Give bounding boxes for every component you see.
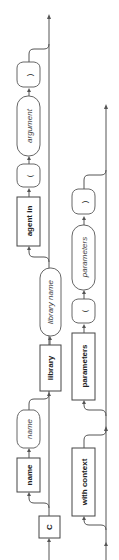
arrow-icon xyxy=(104,426,108,431)
punct-close-paren: ) xyxy=(17,62,40,87)
keyword-label: C xyxy=(45,524,54,530)
variable-label: name xyxy=(25,418,34,439)
keyword-c: C xyxy=(39,516,60,538)
arrow-icon xyxy=(82,400,86,404)
connector xyxy=(29,394,49,410)
keyword-agent-in: agent in xyxy=(17,197,40,246)
connector xyxy=(84,170,106,189)
punct-close-paren: ) xyxy=(72,189,95,214)
arrow-icon xyxy=(47,14,51,19)
variable-name: name xyxy=(17,410,40,448)
arrow-icon xyxy=(27,246,31,250)
variable-argument: argument xyxy=(17,96,40,156)
arrow-icon xyxy=(82,516,86,520)
punct-open-paren: ( xyxy=(72,299,95,323)
connector xyxy=(29,494,49,508)
track-1: C name name library xyxy=(17,14,61,560)
punct-open-paren: ( xyxy=(17,164,40,187)
arrow-icon xyxy=(27,188,31,192)
variable-label: argument xyxy=(25,108,34,143)
arrow-icon xyxy=(27,492,31,496)
arrow-icon xyxy=(104,104,108,109)
punct-label: ( xyxy=(80,309,89,312)
arrow-icon xyxy=(82,324,86,328)
arrow-icon xyxy=(104,542,108,546)
arrow-icon xyxy=(82,290,86,294)
arrow-icon xyxy=(27,156,31,160)
punct-label: ) xyxy=(80,200,89,203)
arrow-icon xyxy=(27,448,31,452)
keyword-with-context: with context xyxy=(72,448,95,516)
arrow-icon xyxy=(82,216,86,220)
track-2: with context parameters ( parameters xyxy=(72,104,108,560)
punct-label: ) xyxy=(25,73,34,76)
keyword-label: agent in xyxy=(25,206,34,237)
connector xyxy=(84,402,106,416)
variable-label: parameters xyxy=(80,237,89,278)
keyword-label: parameters xyxy=(80,344,89,388)
arrow-icon xyxy=(27,88,31,92)
keyword-label: name xyxy=(25,464,34,485)
variable-library-name: library name xyxy=(40,268,61,336)
variable-parameters: parameters xyxy=(72,225,95,290)
syntax-diagram: C name name library xyxy=(0,0,119,560)
keyword-label: with context xyxy=(80,458,89,506)
keyword-library: library xyxy=(40,345,61,391)
arrow-icon xyxy=(47,538,51,542)
keyword-parameters: parameters xyxy=(72,333,95,400)
keyword-label: library xyxy=(46,355,55,380)
arrow-icon xyxy=(47,392,51,396)
punct-label: ( xyxy=(25,174,34,177)
connector xyxy=(84,430,106,448)
connector xyxy=(29,248,49,262)
keyword-name: name xyxy=(17,458,40,492)
variable-label: library name xyxy=(46,279,55,324)
connector xyxy=(29,44,49,62)
connector xyxy=(84,518,106,530)
